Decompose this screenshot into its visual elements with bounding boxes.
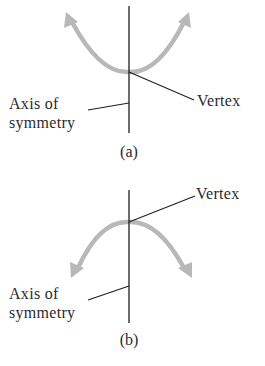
axis-label-line2: symmetry <box>9 114 75 132</box>
vertex-label: Vertex <box>196 185 240 203</box>
figure-caption-b: (b) <box>109 332 149 348</box>
axis-label-line1: Axis of <box>9 95 59 113</box>
figure-b-parabola-opens-down: Axis of symmetry Vertex (b) <box>0 180 265 366</box>
vertex-leader-line <box>129 72 194 100</box>
axis-label-line2: symmetry <box>9 304 75 322</box>
axis-leader-line <box>88 286 129 300</box>
axis-label-line1: Axis of <box>9 285 59 303</box>
vertex-label: Vertex <box>197 92 241 110</box>
figure-a-parabola-opens-up: Axis of symmetry Vertex (a) <box>0 0 265 170</box>
figure-caption-a: (a) <box>109 144 149 160</box>
parabola-curve <box>72 22 184 72</box>
vertex-leader-line <box>129 196 195 222</box>
axis-leader-line <box>88 103 129 110</box>
parabola-curve <box>78 222 184 268</box>
